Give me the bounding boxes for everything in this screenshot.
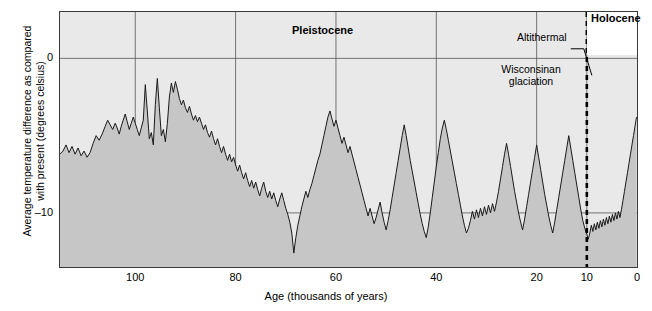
x-tick-label-10: 10 [567,271,607,283]
y-axis-title-line1: Average temperature difference as compar… [21,1,34,261]
annotation-wisconsinan-line1: Wisconsinan [489,63,573,75]
y-axis-title: Average temperature difference as compar… [21,1,47,261]
annotation-holocene: Holocene [591,12,641,24]
annotation-wisconsinan-line2: glaciation [489,75,573,87]
annotation-altithermal: Altithermal [517,31,567,43]
x-axis-title: Age (thousands of years) [0,290,652,302]
x-tick-label-0: 0 [617,271,652,283]
x-tick-label-100: 100 [115,271,155,283]
annotation-pleistocene: Pleistocene [292,24,353,36]
x-tick-label-60: 60 [316,271,356,283]
plot-svg [60,12,637,267]
temperature-area-fill [60,78,637,267]
x-tick-label-20: 20 [517,271,557,283]
plot-area [59,11,638,268]
annotation-wisconsinan-glaciation: Wisconsinan glaciation [489,63,573,87]
x-tick-label-80: 80 [216,271,256,283]
paleoclimate-temperature-chart: Holocene Pleistocene Altithermal Wiscons… [0,0,652,311]
x-tick-label-40: 40 [416,271,456,283]
y-axis-title-line2: with present (degrees celsius) [34,1,47,261]
